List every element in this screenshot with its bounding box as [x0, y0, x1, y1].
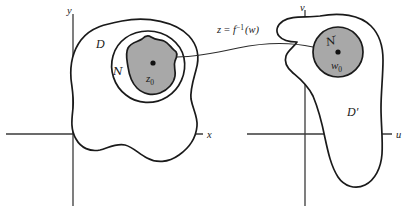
figure-container: y x D N z0 v u D′ N′ w0 z=f−1(w)	[0, 0, 409, 211]
x-axis-label: x	[206, 129, 212, 140]
mapping-equals: =	[224, 24, 230, 35]
y-axis-label: y	[66, 5, 72, 16]
mapping-lhs: z	[216, 24, 221, 35]
labels-layer: y x D N z0 v u D′ N′ w0 z=f−1(w)	[0, 0, 409, 211]
neighborhood-N-label: N	[112, 65, 123, 78]
point-w0-subscript: 0	[338, 65, 342, 74]
v-axis-label: v	[300, 2, 305, 13]
mapping-label: z=f−1(w)	[216, 23, 259, 37]
point-z0-subscript: 0	[150, 78, 154, 87]
u-axis-label: u	[396, 129, 401, 140]
point-w0-label: w0	[331, 59, 342, 74]
mapping-exponent: −1	[236, 23, 244, 32]
domain-D-label: D	[95, 37, 105, 51]
domain-Dprime-label: D′	[346, 105, 359, 119]
neighborhood-Nprime-label: N′	[324, 33, 339, 49]
point-z0-label: z0	[145, 72, 154, 87]
mapping-arg: (w)	[245, 24, 260, 36]
